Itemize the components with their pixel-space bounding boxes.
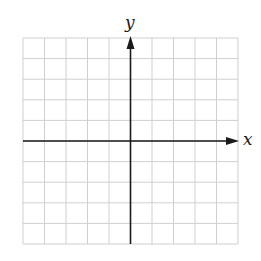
coordinate-grid (0, 0, 261, 261)
axes (23, 36, 239, 244)
x-axis-label: x (243, 131, 253, 148)
y-axis-label: y (125, 14, 135, 31)
x-axis-arrow-icon (226, 137, 239, 145)
